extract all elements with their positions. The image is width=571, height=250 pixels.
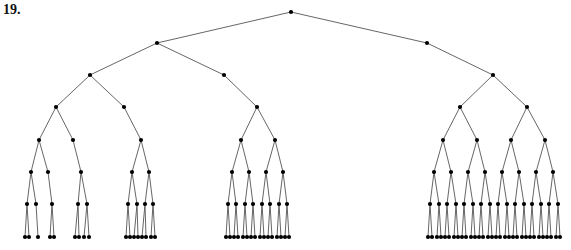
- tree-leaf: [73, 235, 77, 239]
- tree-edge: [287, 204, 289, 237]
- tree-node: [475, 138, 479, 142]
- tree-node: [534, 170, 538, 174]
- tree-node: [234, 202, 238, 206]
- tree-edge: [507, 204, 509, 237]
- tree-leaf: [232, 235, 236, 239]
- tree-node: [126, 202, 130, 206]
- tree-node: [243, 202, 247, 206]
- tree-edge: [137, 204, 138, 237]
- tree-leaf: [124, 235, 128, 239]
- tree-node: [76, 202, 80, 206]
- tree-edge: [124, 107, 141, 140]
- tree-leaf: [515, 235, 519, 239]
- tree-edge: [434, 140, 443, 172]
- tree-leaf: [270, 235, 274, 239]
- tree-node: [428, 202, 432, 206]
- tree-edge: [515, 172, 519, 204]
- tree-edge: [468, 172, 473, 204]
- tree-node: [517, 170, 521, 174]
- tree-edge: [545, 140, 553, 172]
- tree-leaf: [153, 235, 157, 239]
- tree-edge: [275, 140, 283, 172]
- tree-edge: [464, 172, 468, 204]
- tree-edge: [39, 107, 56, 140]
- tree-node: [488, 202, 492, 206]
- tree-leaf: [144, 235, 148, 239]
- tree-edge: [90, 75, 124, 107]
- tree-edge: [48, 172, 52, 204]
- tree-edge: [128, 172, 132, 204]
- tree-node: [130, 170, 134, 174]
- tree-edge: [460, 75, 493, 107]
- tree-edge: [505, 204, 507, 237]
- tree-edge: [39, 140, 48, 172]
- tree-edge: [549, 172, 553, 204]
- tree-edge: [439, 204, 441, 237]
- tree-edge: [536, 172, 541, 204]
- tree-leaf: [128, 235, 132, 239]
- tree-node: [25, 202, 29, 206]
- tree-edge: [539, 204, 541, 237]
- tree-leaf: [532, 235, 536, 239]
- tree-edge: [481, 204, 483, 237]
- tree-edge: [245, 172, 249, 204]
- tree-leaf: [435, 235, 439, 239]
- tree-edge: [50, 204, 52, 237]
- tree-node: [496, 202, 500, 206]
- tree-leaf: [503, 235, 507, 239]
- tree-node: [505, 202, 509, 206]
- tree-edge: [468, 140, 477, 172]
- tree-leaf: [275, 235, 279, 239]
- tree-leaf: [87, 235, 91, 239]
- tree-leaf: [558, 235, 562, 239]
- tree-leaf: [279, 235, 283, 239]
- tree-edge: [268, 204, 270, 237]
- tree-node: [34, 202, 38, 206]
- tree-edge: [524, 204, 526, 237]
- tree-leaf: [82, 235, 86, 239]
- tree-node: [543, 138, 547, 142]
- tree-node: [239, 138, 243, 142]
- tree-leaf: [241, 235, 245, 239]
- tree-edge: [532, 172, 536, 204]
- tree-edge: [241, 107, 257, 140]
- tree-edge: [445, 204, 447, 237]
- tree-node: [147, 170, 151, 174]
- tree-edge: [81, 172, 87, 204]
- tree-edge: [270, 204, 272, 237]
- tree-edge: [437, 204, 439, 237]
- tree-edge: [253, 204, 255, 237]
- tree-edge: [260, 204, 262, 237]
- tree-leaf: [528, 235, 532, 239]
- tree-node: [513, 202, 517, 206]
- tree-edge: [496, 204, 498, 237]
- tree-edge: [277, 204, 279, 237]
- tree-node: [135, 202, 139, 206]
- tree-edge: [149, 172, 153, 204]
- tree-edge: [456, 204, 458, 237]
- tree-edge: [283, 172, 287, 204]
- tree-node: [37, 138, 41, 142]
- tree-edge: [142, 204, 145, 237]
- tree-edge: [78, 172, 81, 204]
- tree-node: [251, 202, 255, 206]
- tree-edge: [536, 140, 545, 172]
- tree-node: [491, 73, 495, 77]
- tree-leaf: [36, 235, 40, 239]
- tree-edge: [447, 204, 449, 237]
- tree-node: [54, 105, 58, 109]
- tree-node: [247, 170, 251, 174]
- tree-node: [462, 202, 466, 206]
- tree-edge: [522, 204, 524, 237]
- tree-edge: [36, 204, 38, 237]
- tree-edge: [460, 107, 477, 140]
- tree-edge: [25, 204, 27, 237]
- tree-edge: [56, 75, 90, 107]
- tree-leaf: [439, 235, 443, 239]
- tree-edge: [90, 43, 157, 75]
- tree-edge: [488, 204, 490, 237]
- tree-edge: [241, 140, 249, 172]
- tree-edge: [257, 107, 275, 140]
- tree-node: [449, 170, 453, 174]
- tree-edge: [153, 204, 155, 237]
